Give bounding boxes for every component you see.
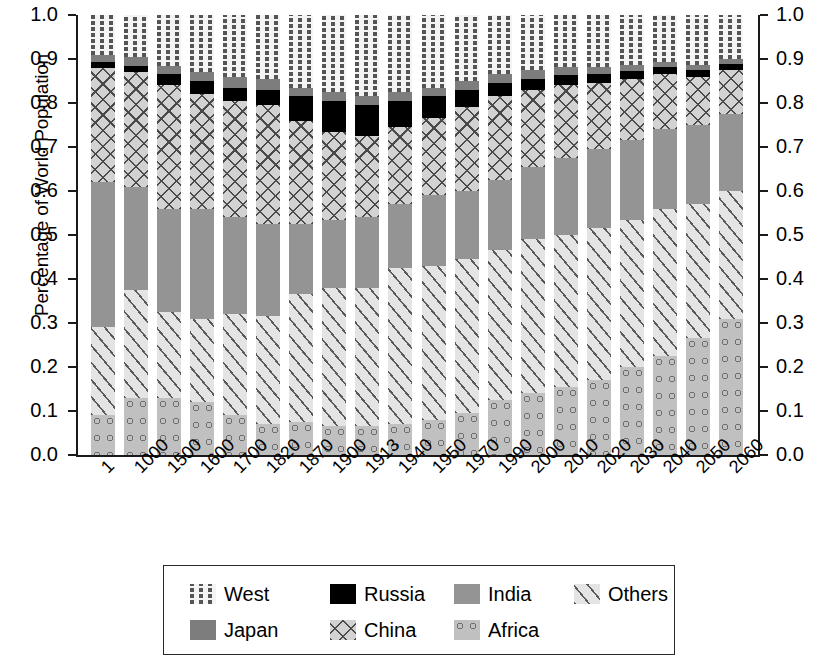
bar-segment-india — [124, 187, 148, 290]
y-tick-label-right: 0.8 — [776, 92, 804, 112]
legend-swatch-west-icon — [190, 584, 216, 604]
bar-segment-others — [422, 266, 446, 420]
y-tick-label-left: 0.2 — [30, 356, 58, 376]
bar-segment-india — [256, 224, 280, 316]
bar-segment-india — [521, 167, 545, 240]
y-tick-label-right: 0.0 — [776, 444, 804, 464]
bar-1000[interactable] — [124, 15, 148, 455]
bar-1[interactable] — [91, 15, 115, 455]
bar-segment-china — [256, 105, 280, 224]
bar-segment-india — [422, 195, 446, 265]
bar-segment-others — [488, 250, 512, 400]
legend-swatch-africa-icon — [454, 620, 480, 640]
bar-segment-china — [322, 132, 346, 220]
bar-segment-africa — [719, 319, 743, 455]
y-tick-label-left: 0.1 — [30, 400, 58, 420]
bar-segment-others — [620, 220, 644, 367]
bar-segment-india — [190, 209, 214, 319]
legend-swatch-india-icon — [454, 584, 480, 604]
y-tick-mark — [68, 190, 76, 192]
bar-1950[interactable] — [422, 15, 446, 455]
y-tick-label-left: 0.4 — [30, 268, 58, 288]
bar-2020[interactable] — [587, 15, 611, 455]
bar-segment-china — [223, 101, 247, 218]
bar-segment-others — [587, 228, 611, 380]
bar-segment-china — [388, 127, 412, 204]
bar-2000[interactable] — [521, 15, 545, 455]
bar-segment-russia — [91, 62, 115, 68]
legend-label: Others — [608, 580, 668, 608]
bar-segment-china — [620, 79, 644, 141]
legend-swatch-russia-icon — [330, 584, 356, 604]
bar-1820[interactable] — [256, 15, 280, 455]
bar-segment-japan — [488, 74, 512, 83]
bar-segment-others — [355, 288, 379, 427]
bar-1500[interactable] — [157, 15, 181, 455]
bar-1940[interactable] — [388, 15, 412, 455]
bar-segment-others — [256, 316, 280, 424]
y-tick-label-left: 0.9 — [30, 48, 58, 68]
bar-segment-russia — [256, 90, 280, 105]
y-tick-label-left: 0.8 — [30, 92, 58, 112]
bar-segment-west — [124, 15, 148, 57]
legend-label: Japan — [224, 616, 279, 644]
y-tick-mark — [68, 322, 76, 324]
bar-2050[interactable] — [686, 15, 710, 455]
bar-segment-others — [124, 290, 148, 398]
bar-2040[interactable] — [653, 15, 677, 455]
bar-segment-west — [422, 15, 446, 88]
bar-segment-others — [455, 259, 479, 413]
bar-segment-india — [289, 224, 313, 294]
bar-segment-west — [719, 15, 743, 59]
bar-segment-china — [422, 118, 446, 195]
y-tick-mark — [760, 190, 768, 192]
bar-segment-japan — [91, 55, 115, 62]
bar-segment-west — [554, 15, 578, 67]
bar-segment-russia — [289, 96, 313, 120]
bar-segment-japan — [521, 70, 545, 79]
bar-1700[interactable] — [223, 15, 247, 455]
bar-segment-china — [289, 121, 313, 224]
bar-segment-west — [322, 15, 346, 92]
bar-segment-west — [587, 15, 611, 67]
bar-segment-russia — [455, 90, 479, 108]
bar-2030[interactable] — [620, 15, 644, 455]
bar-segment-china — [124, 72, 148, 186]
bar-1990[interactable] — [488, 15, 512, 455]
bar-1870[interactable] — [289, 15, 313, 455]
bar-segment-india — [388, 204, 412, 268]
bar-2010[interactable] — [554, 15, 578, 455]
bar-segment-japan — [388, 92, 412, 101]
y-tick-label-left: 0.0 — [30, 444, 58, 464]
bar-segment-japan — [587, 67, 611, 74]
bar-segment-india — [355, 217, 379, 287]
bar-segment-others — [719, 191, 743, 319]
bar-segment-india — [587, 149, 611, 228]
bar-1913[interactable] — [355, 15, 379, 455]
bar-segment-russia — [620, 71, 644, 79]
bar-segment-others — [554, 235, 578, 387]
bar-segment-india — [488, 180, 512, 250]
bar-segment-china — [587, 83, 611, 149]
bar-1970[interactable] — [455, 15, 479, 455]
y-tick-mark — [68, 278, 76, 280]
bar-segment-japan — [322, 92, 346, 101]
bar-segment-russia — [124, 66, 148, 73]
bar-2060[interactable] — [719, 15, 743, 455]
bar-segment-china — [719, 70, 743, 114]
bar-segment-russia — [554, 75, 578, 85]
legend-swatch-others-icon — [574, 584, 600, 604]
bar-segment-japan — [686, 65, 710, 70]
bar-segment-japan — [223, 77, 247, 88]
y-tick-label-right: 0.9 — [776, 48, 804, 68]
bar-segment-india — [157, 209, 181, 312]
bar-segment-russia — [422, 96, 446, 118]
bar-segment-africa — [124, 398, 148, 455]
bar-1600[interactable] — [190, 15, 214, 455]
bar-1900[interactable] — [322, 15, 346, 455]
bar-segment-west — [190, 15, 214, 72]
legend-label: Africa — [488, 616, 539, 644]
bar-segment-west — [355, 15, 379, 96]
bar-segment-china — [455, 107, 479, 191]
bar-segment-others — [521, 239, 545, 393]
